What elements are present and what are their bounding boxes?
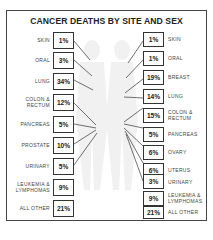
- female-value-pancreas: 5%: [143, 127, 164, 142]
- female-label-pancreas: PANCREAS: [168, 132, 208, 138]
- male-value-colon-rectum: 12%: [53, 94, 74, 111]
- female-value-colon-rectum: 15%: [143, 108, 164, 123]
- male-label-skin: SKIN: [10, 38, 50, 44]
- female-value-leukemia-lymphomas: 9%: [143, 191, 164, 206]
- female-label-ovary: OVARY: [168, 150, 208, 156]
- male-value-skin: 1%: [53, 32, 74, 49]
- female-label-uterus: UTERUS: [168, 168, 208, 174]
- female-label-breast: BREAST: [168, 75, 208, 81]
- male-label-colon-rectum: COLON & RECTUM: [10, 97, 50, 108]
- male-label-prostate: PROSTATE: [10, 143, 50, 149]
- female-value-ovary: 6%: [143, 145, 164, 160]
- female-label-leukemia-lymphomas: LEUKEMIA & LYMPHOMAS: [168, 193, 208, 204]
- female-value-urinary: 3%: [143, 174, 164, 189]
- male-label-urinary: URINARY: [10, 164, 50, 170]
- label-line: LYMPHOMAS: [168, 199, 208, 205]
- male-value-leukemia-lymphomas: 9%: [53, 179, 74, 196]
- female-value-skin: 1%: [143, 32, 164, 47]
- male-value-prostate: 10%: [53, 137, 74, 154]
- female-value-oral: 1%: [143, 51, 164, 66]
- male-value-all-other: 21%: [53, 200, 74, 217]
- female-value-all-other: 21%: [143, 206, 164, 219]
- male-label-lung: LUNG: [10, 79, 50, 85]
- male-label-all-other: ALL OTHER: [8, 206, 50, 212]
- male-value-pancreas: 5%: [53, 116, 74, 133]
- label-line: RECTUM: [10, 103, 50, 109]
- female-value-lung: 14%: [143, 89, 164, 104]
- female-value-breast: 19%: [143, 70, 164, 85]
- male-value-urinary: 5%: [53, 158, 74, 175]
- female-label-skin: SKIN: [168, 37, 208, 43]
- label-line: RECTUM: [168, 116, 208, 122]
- female-label-colon-rectum: COLON & RECTUM: [168, 110, 208, 121]
- male-label-oral: ORAL: [10, 58, 50, 64]
- female-label-all-other: ALL OTHER: [168, 210, 208, 216]
- male-label-leukemia-lymphomas: LEUKEMIA & LYMPHOMAS: [8, 182, 50, 193]
- female-label-oral: ORAL: [168, 56, 208, 62]
- female-label-urinary: URINARY: [168, 180, 208, 186]
- label-line: LYMPHOMAS: [8, 188, 50, 194]
- male-value-lung: 34%: [53, 73, 74, 90]
- male-value-oral: 3%: [53, 52, 74, 69]
- female-label-lung: LUNG: [168, 94, 208, 100]
- male-label-pancreas: PANCREAS: [10, 122, 50, 128]
